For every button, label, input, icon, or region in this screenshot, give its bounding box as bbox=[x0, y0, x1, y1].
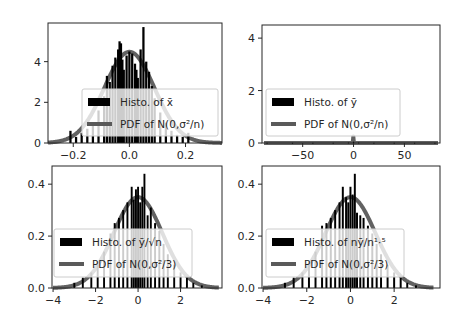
legend-swatch-bar bbox=[272, 238, 294, 246]
x-tick-label: 0 bbox=[135, 294, 142, 307]
histogram-bar bbox=[192, 283, 194, 288]
legend-label: PDF of N(0,σ²/3) bbox=[304, 258, 388, 270]
legend: Histo. of x̄PDF of N(0,σ²/n) bbox=[82, 89, 218, 136]
x-tick-label: 2 bbox=[177, 294, 184, 307]
y-tick-label: 0 bbox=[34, 137, 41, 150]
legend-label: Histo. of x̄ bbox=[120, 96, 173, 108]
x-tick-label: 0.0 bbox=[121, 149, 139, 162]
y-tick-label: 2 bbox=[34, 96, 41, 109]
x-tick-label: 0 bbox=[350, 149, 357, 162]
histogram-bar bbox=[75, 137, 77, 143]
x-tick-label: −4 bbox=[255, 294, 271, 307]
legend: Histo. of nȳ/n¹·⁵PDF of N(0,σ²/3) bbox=[266, 229, 404, 277]
x-tick-label: −2 bbox=[87, 294, 103, 307]
y-tick-label: 0.0 bbox=[28, 282, 46, 295]
x-tick-label: 50 bbox=[397, 149, 411, 162]
histogram-bar bbox=[182, 137, 184, 143]
y-tick-label: 0 bbox=[248, 137, 255, 150]
y-tick-label: 4 bbox=[34, 56, 41, 69]
histogram-bar bbox=[82, 278, 84, 288]
histogram-bar bbox=[284, 283, 286, 288]
x-tick-label: −4 bbox=[45, 294, 61, 307]
histogram-bar bbox=[400, 278, 402, 288]
legend-label: PDF of N(0,σ²/3) bbox=[92, 258, 176, 270]
y-tick-label: 0.2 bbox=[28, 230, 46, 243]
x-tick-label: −50 bbox=[291, 149, 314, 162]
legend-label: Histo. of ȳ bbox=[304, 96, 357, 108]
legend: Histo. of ȳ/√nPDF of N(0,σ²/3) bbox=[54, 229, 192, 277]
legend-label: PDF of N(0,σ²/n) bbox=[120, 118, 204, 130]
subplot-top-right: −50050024Histo. of ȳPDF of N(0,σ²/n) bbox=[248, 25, 440, 162]
legend-swatch-bar bbox=[60, 238, 82, 246]
y-tick-label: 0.0 bbox=[238, 282, 256, 295]
legend-swatch-bar bbox=[88, 98, 110, 106]
legend-label: PDF of N(0,σ²/n) bbox=[304, 118, 388, 130]
histogram-bar bbox=[406, 283, 408, 288]
pdf-curve bbox=[264, 136, 438, 143]
x-tick-label: −0.2 bbox=[60, 149, 87, 162]
legend: Histo. of ȳPDF of N(0,σ²/n) bbox=[266, 89, 400, 136]
legend-label: Histo. of ȳ/√n bbox=[92, 236, 162, 248]
histogram-bar bbox=[73, 283, 75, 288]
subplot-top-left: −0.20.00.2024Histo. of x̄PDF of N(0,σ²/n… bbox=[34, 23, 222, 162]
histogram-bar bbox=[293, 278, 295, 288]
figure-canvas: −0.20.00.2024Histo. of x̄PDF of N(0,σ²/n… bbox=[0, 0, 459, 324]
y-tick-label: 4 bbox=[248, 32, 255, 45]
legend-swatch-bar bbox=[272, 98, 294, 106]
histogram-bar bbox=[186, 278, 188, 288]
subplot-bottom-right: −4−2020.00.20.4Histo. of nȳ/n¹·⁵PDF of N… bbox=[238, 166, 441, 307]
legend-label: Histo. of nȳ/n¹·⁵ bbox=[304, 236, 386, 248]
subplot-bottom-left: −4−2020.00.20.4Histo. of ȳ/√nPDF of N(0,… bbox=[28, 166, 223, 307]
y-tick-label: 0.4 bbox=[238, 178, 256, 191]
histogram-bar bbox=[69, 131, 71, 143]
x-tick-label: −2 bbox=[299, 294, 315, 307]
x-tick-label: 2 bbox=[391, 294, 398, 307]
y-tick-label: 0.2 bbox=[238, 230, 256, 243]
x-tick-label: 0 bbox=[347, 294, 354, 307]
x-tick-label: 0.2 bbox=[177, 149, 195, 162]
y-tick-label: 2 bbox=[248, 85, 255, 98]
y-tick-label: 0.4 bbox=[28, 178, 46, 191]
